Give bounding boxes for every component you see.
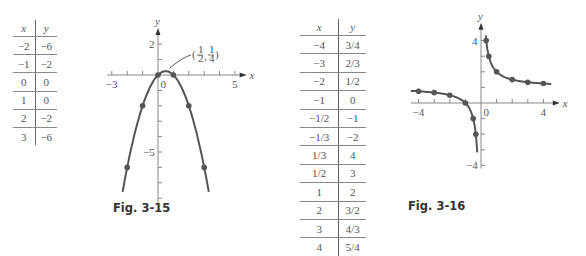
annotation-leader bbox=[170, 55, 191, 68]
y-tick-label: −4 bbox=[466, 159, 478, 171]
x-axis-arrow-icon bbox=[240, 73, 247, 78]
x-tick-label: 5 bbox=[232, 78, 238, 90]
data-point bbox=[431, 90, 437, 96]
y-axis-label: y bbox=[154, 15, 160, 27]
y-axis-label: y bbox=[477, 10, 483, 22]
chart-fig-3-16: xy−4044−4 bbox=[411, 10, 568, 172]
data-point bbox=[124, 165, 130, 171]
x-tick-label: 4 bbox=[540, 106, 546, 118]
y-axis-arrow-icon bbox=[156, 28, 161, 35]
svg-text:(: ( bbox=[192, 48, 196, 61]
y-axis-arrow-icon bbox=[479, 23, 484, 30]
data-point bbox=[171, 72, 177, 78]
x-axis-label: x bbox=[562, 97, 568, 109]
x-tick-label: −4 bbox=[413, 106, 425, 118]
x-axis-label: x bbox=[249, 69, 255, 81]
chart-fig-3-15: xy−3052−5(12,14) bbox=[106, 15, 255, 203]
data-point bbox=[447, 92, 453, 98]
data-point bbox=[201, 165, 207, 171]
y-tick-label: 4 bbox=[472, 35, 478, 47]
caption-fig-3-15: Fig. 3-15 bbox=[113, 201, 170, 215]
data-point bbox=[486, 53, 492, 59]
data-point bbox=[541, 81, 547, 87]
caption-fig-3-16: Fig. 3-16 bbox=[408, 199, 465, 213]
curve bbox=[411, 91, 478, 152]
data-point bbox=[473, 131, 479, 137]
data-point bbox=[525, 79, 531, 85]
x-axis-arrow-icon bbox=[553, 101, 560, 106]
data-point bbox=[140, 103, 146, 109]
x-tick-label: 0 bbox=[483, 106, 489, 118]
x-tick-label: 0 bbox=[160, 78, 166, 90]
data-point bbox=[186, 103, 192, 109]
svg-text:): ) bbox=[215, 48, 219, 61]
data-point bbox=[470, 116, 476, 122]
data-point bbox=[509, 77, 515, 83]
vertex-annotation: (12,14) bbox=[192, 43, 219, 64]
curve bbox=[486, 35, 552, 84]
x-tick-label: −3 bbox=[106, 78, 118, 90]
y-tick-label: −5 bbox=[143, 146, 155, 158]
data-point bbox=[416, 89, 422, 95]
svg-text:,: , bbox=[204, 50, 207, 62]
data-point bbox=[463, 100, 469, 106]
data-point bbox=[483, 38, 489, 44]
y-tick-label: 2 bbox=[149, 38, 155, 50]
svg-text:2: 2 bbox=[198, 52, 204, 64]
data-point bbox=[494, 69, 500, 75]
data-point bbox=[155, 72, 161, 78]
